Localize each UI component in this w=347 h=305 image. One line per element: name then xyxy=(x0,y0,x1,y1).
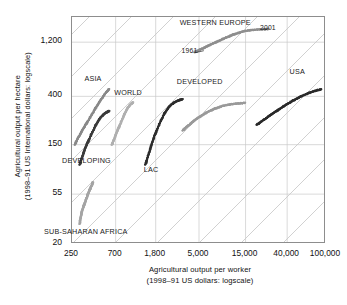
series-label: USA xyxy=(290,67,305,76)
x-axis-title-line2: (1998–91 US dollars: logscale) xyxy=(60,276,340,287)
year-annotation: 1961 xyxy=(182,47,198,54)
x-axis-title: Agricultural output per worker (1998–91 … xyxy=(60,265,340,286)
series-label: DEVELOPED xyxy=(177,77,223,86)
chart-figure: Agricultural output per hectare (1998–91… xyxy=(0,0,347,305)
series-label: WORLD xyxy=(114,88,142,97)
series-label: WESTERN EUROPE xyxy=(180,18,251,27)
series-label: LAC xyxy=(144,165,159,174)
year-annotation: 2001 xyxy=(260,24,276,31)
series-label: ASIA xyxy=(84,74,101,83)
x-axis-title-line1: Agricultural output per worker xyxy=(60,265,340,276)
series-annotations: ASIADEVELOPINGWORLDLACDEVELOPEDWESTERN E… xyxy=(0,0,347,305)
series-label: DEVELOPING xyxy=(62,156,111,165)
series-label: SUB-SAHARAN AFRICA xyxy=(44,227,127,236)
